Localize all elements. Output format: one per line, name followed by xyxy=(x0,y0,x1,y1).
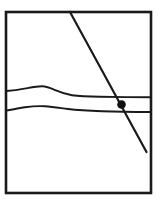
intersection-point-marker xyxy=(117,100,126,109)
cross-section-diagram xyxy=(0,0,160,207)
diagram-canvas xyxy=(0,0,160,207)
